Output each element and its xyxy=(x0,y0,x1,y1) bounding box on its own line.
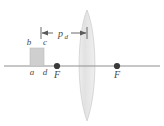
focal-point-left-label: F xyxy=(53,69,61,80)
object-corner-label-a: a xyxy=(30,67,35,77)
object-corner-label-d: d xyxy=(43,67,48,77)
object-corner-label-c: c xyxy=(43,37,47,47)
object-distance-label: p xyxy=(57,28,63,39)
optics-diagram-canvas: b c a d F F p d xyxy=(0,0,164,126)
optics-figure: b c a d F F p d xyxy=(0,0,164,126)
object-corner-label-b: b xyxy=(27,37,32,47)
focal-point-right-label: F xyxy=(113,69,121,80)
object-block xyxy=(30,48,44,66)
dimension-arrowhead-left xyxy=(42,30,49,35)
object-distance-label-subscript: d xyxy=(65,33,69,41)
